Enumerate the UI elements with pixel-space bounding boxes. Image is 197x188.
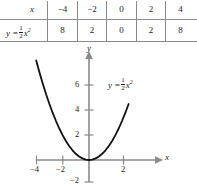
table-header-cell-3: 2 <box>137 4 165 15</box>
curve-label-exponent: 2 <box>130 79 133 85</box>
table-header-cell-0: −4 <box>48 4 77 15</box>
row-label-denominator: 2 <box>19 33 24 40</box>
x-tick-label-minus4: −4 <box>30 164 39 174</box>
table-value-cell-0: 8 <box>48 25 77 36</box>
table-value-cell-4: 8 <box>166 25 195 36</box>
row-label-fraction: 12 <box>19 25 24 40</box>
value-table: x −4 −2 0 2 4 y =12x2 8 2 0 2 8 <box>0 0 197 44</box>
table-header-cell-4: 4 <box>166 4 195 15</box>
curve-label-denominator: 2 <box>121 85 126 92</box>
y-tick-label-2: 2 <box>75 129 79 139</box>
parabola-graph: y x 6 4 2 −2 −4 −2 2 y =12x2 <box>0 44 197 188</box>
math-figure: x −4 −2 0 2 4 y =12x2 8 2 0 2 8 <box>0 0 197 188</box>
y-tick-label-4: 4 <box>75 104 79 114</box>
x-tick-label-2: 2 <box>121 164 125 174</box>
curve-equation-label: y =12x2 <box>108 77 133 92</box>
table-header-x: x <box>20 4 44 15</box>
x-axis-label: x <box>165 152 169 162</box>
y-axis <box>85 51 94 182</box>
table-value-cell-3: 2 <box>137 25 165 36</box>
y-tick-label-minus2: −2 <box>70 175 79 185</box>
table-header-cell-1: −2 <box>78 4 106 15</box>
y-tick-label-6: 6 <box>75 79 79 89</box>
curve-label-prefix: y = <box>108 80 120 90</box>
y-axis-label: y <box>87 43 91 53</box>
table-header-cell-2: 0 <box>107 4 136 15</box>
table-value-cell-1: 2 <box>78 25 106 36</box>
curve-label-fraction: 12 <box>121 77 126 92</box>
x-tick-label-minus2: −2 <box>56 164 65 174</box>
parabola <box>36 60 128 160</box>
table-value-cell-2: 0 <box>107 25 136 36</box>
row-label-prefix: y = <box>6 28 18 38</box>
row-label-exponent: 2 <box>28 27 31 33</box>
table-row-label: y =12x2 <box>6 25 31 40</box>
